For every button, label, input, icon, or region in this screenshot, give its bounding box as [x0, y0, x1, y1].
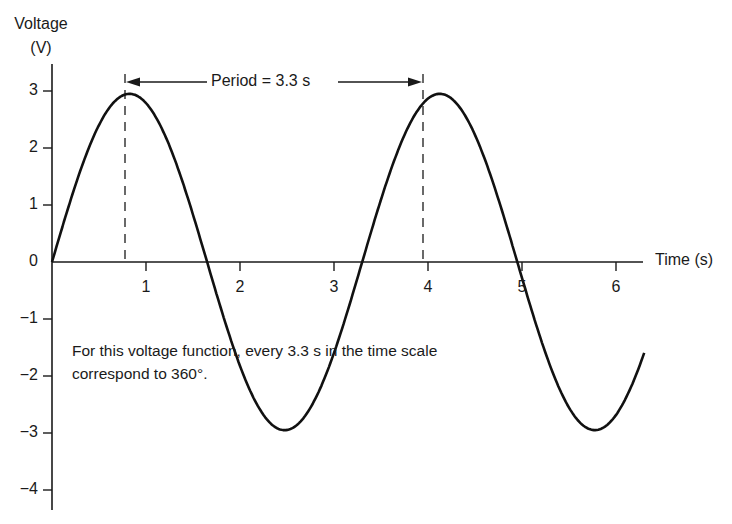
x-axis-label: Time (s)	[655, 252, 713, 268]
y-tick-label: −4	[8, 481, 38, 497]
y-axis-label: Voltage (V)	[8, 12, 74, 60]
y-tick-label: −2	[8, 367, 38, 383]
x-tick-label: 2	[230, 279, 250, 295]
x-tick-marks	[146, 262, 616, 271]
y-tick-label: 1	[8, 196, 38, 212]
x-tick-label: 4	[418, 279, 438, 295]
y-tick-label: 3	[8, 82, 38, 98]
arrowhead-left-icon	[126, 78, 140, 87]
x-tick-label: 3	[324, 279, 344, 295]
y-tick-label: −3	[8, 424, 38, 440]
y-tick-label: −1	[8, 310, 38, 326]
sine-voltage-chart	[0, 0, 732, 524]
y-axis-label-line1: Voltage	[8, 12, 74, 36]
x-tick-label: 5	[512, 279, 532, 295]
period-label: Period = 3.3 s	[207, 73, 314, 89]
y-tick-label: 0	[8, 253, 38, 269]
annotation-note-line1: For this voltage function, every 3.3 s i…	[72, 339, 532, 362]
y-axis-label-line2: (V)	[8, 36, 74, 60]
x-tick-label: 6	[606, 279, 626, 295]
y-tick-label: 2	[8, 139, 38, 155]
y-tick-marks	[43, 91, 52, 490]
annotation-note: For this voltage function, every 3.3 s i…	[72, 339, 532, 385]
x-tick-label: 1	[136, 279, 156, 295]
annotation-note-line2: correspond to 360°.	[72, 362, 532, 385]
arrowhead-right-icon	[408, 78, 422, 87]
